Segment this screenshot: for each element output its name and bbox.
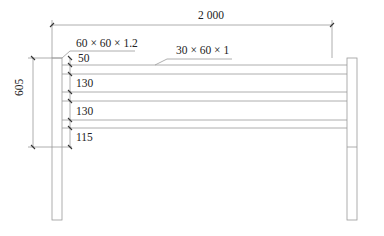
left-post xyxy=(52,58,62,220)
spacing-label-3: 130 xyxy=(76,106,93,118)
height-label: 605 xyxy=(14,79,26,96)
rail-section-label: 30 × 60 × 1 xyxy=(176,45,229,57)
spacing-label-1: 50 xyxy=(78,53,90,65)
post-leader xyxy=(62,51,135,58)
height-dimension xyxy=(28,56,72,149)
spacing-label-2: 130 xyxy=(76,78,93,90)
rail-leader xyxy=(155,59,232,65)
right-post xyxy=(347,58,357,220)
spacing-label-4: 115 xyxy=(76,132,93,144)
post-section-label: 60 × 60 × 1.2 xyxy=(76,38,138,50)
spacing-dimensions xyxy=(68,56,72,149)
fence-drawing xyxy=(0,0,384,236)
rails xyxy=(62,65,347,128)
width-label: 2 000 xyxy=(198,10,224,22)
